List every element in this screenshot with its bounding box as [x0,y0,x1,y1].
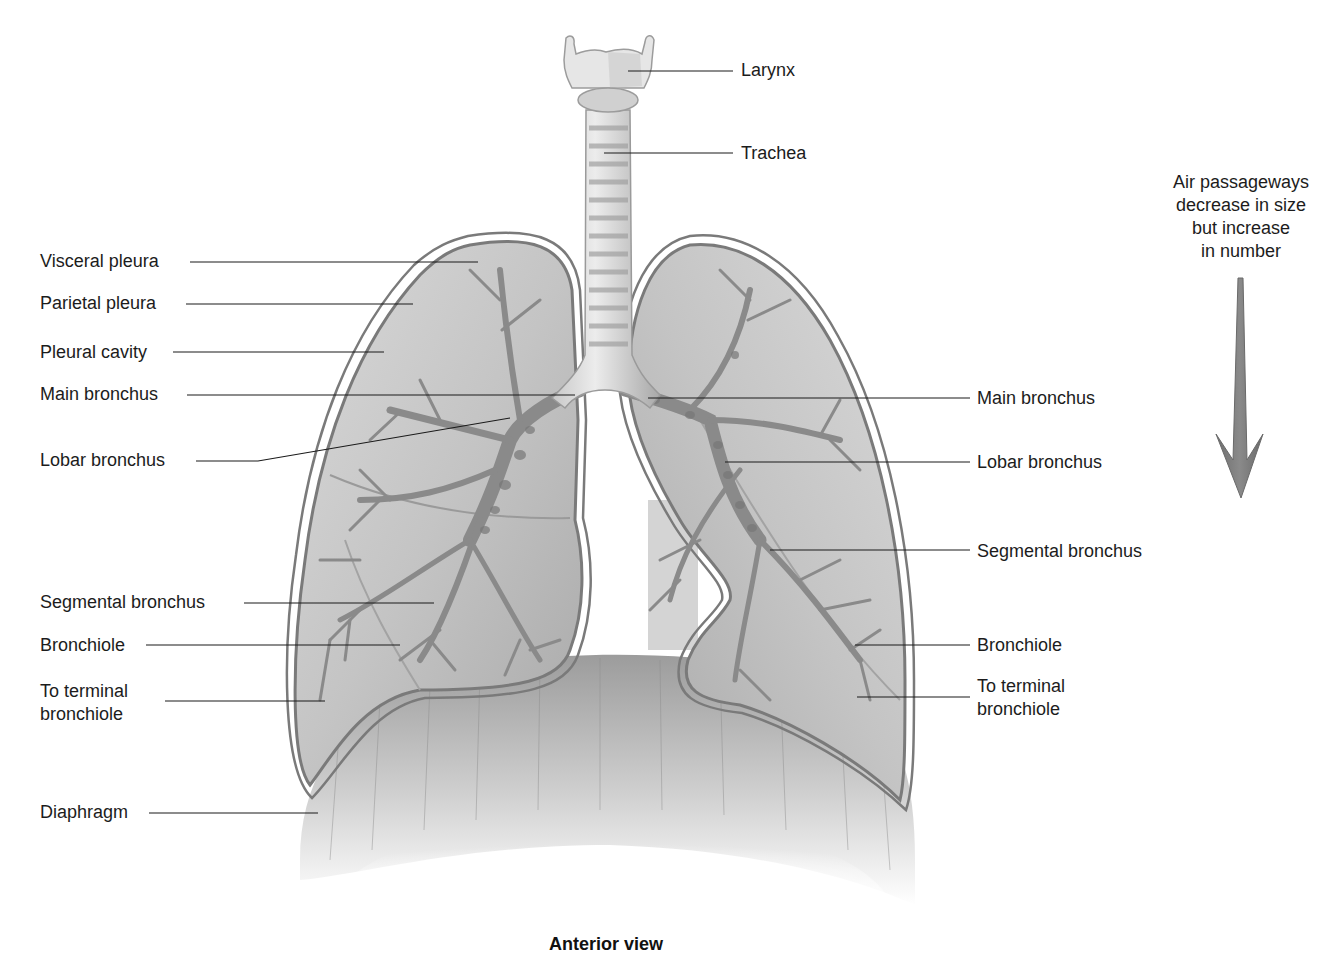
larynx-shape [564,36,654,112]
label-larynx: Larynx [741,59,795,82]
label-line-2: bronchiole [40,703,128,726]
label-line-1: To terminal [977,675,1065,698]
label-lobar-bronchus-right-lung: Lobar bronchus [40,449,165,472]
label-lobar-bronchus-left-lung: Lobar bronchus [977,451,1102,474]
label-to-terminal-bronchiole-left-lung: To terminal bronchiole [977,675,1065,721]
label-parietal-pleura: Parietal pleura [40,292,156,315]
down-arrow-icon [1216,278,1263,498]
label-main-bronchus-left-lung: Main bronchus [977,387,1095,410]
label-pleural-cavity: Pleural cavity [40,341,147,364]
label-main-bronchus-right-lung: Main bronchus [40,383,158,406]
note-line-1: Air passageways [1150,171,1332,194]
note-line-3: but increase [1150,217,1332,240]
air-passageways-note: Air passageways decrease in size but inc… [1150,171,1332,263]
figure-caption: Anterior view [500,934,712,955]
label-line-1: To terminal [40,680,128,703]
label-bronchiole-right-lung: Bronchiole [40,634,125,657]
label-line-2: bronchiole [977,698,1065,721]
label-bronchiole-left-lung: Bronchiole [977,634,1062,657]
label-visceral-pleura: Visceral pleura [40,250,159,273]
note-line-2: decrease in size [1150,194,1332,217]
label-diaphragm: Diaphragm [40,801,128,824]
label-segmental-bronchus-left-lung: Segmental bronchus [977,540,1142,563]
note-line-4: in number [1150,240,1332,263]
label-to-terminal-bronchiole-right-lung: To terminal bronchiole [40,680,128,726]
label-segmental-bronchus-right-lung: Segmental bronchus [40,591,205,614]
label-trachea: Trachea [741,142,806,165]
respiratory-tree-illustration [0,0,1341,955]
